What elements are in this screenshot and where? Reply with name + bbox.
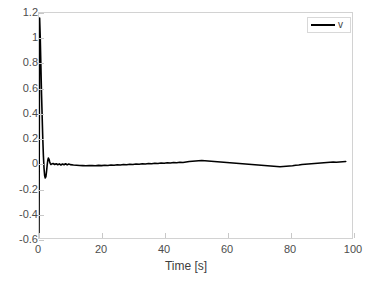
x-tick-mark: [228, 233, 229, 238]
y-tick-label: 0.8: [23, 56, 38, 68]
y-tick-label: 0.4: [23, 107, 38, 119]
x-tick-label: 20: [95, 243, 107, 255]
x-tick-label: 0: [35, 243, 41, 255]
legend-line-sample: [311, 24, 335, 26]
x-tick-mark: [102, 233, 103, 238]
x-axis-label: Time [s]: [0, 259, 372, 273]
y-tick-label: 1.2: [23, 6, 38, 18]
x-tick-mark: [354, 233, 355, 238]
y-tick-mark: [39, 190, 44, 191]
y-tick-mark: [39, 38, 44, 39]
y-tick-mark: [39, 139, 44, 140]
x-tick-mark: [39, 233, 40, 238]
y-tick-label: -0.4: [19, 208, 38, 220]
x-tick-label: 60: [221, 243, 233, 255]
y-tick-mark: [39, 215, 44, 216]
y-tick-label: -0.2: [19, 183, 38, 195]
x-tick-label: 100: [344, 243, 362, 255]
y-tick-label: 0.6: [23, 82, 38, 94]
y-tick-mark: [39, 89, 44, 90]
series-line-v: [39, 13, 352, 238]
x-tick-mark: [165, 233, 166, 238]
y-tick-mark: [39, 13, 44, 14]
plot-area: [38, 12, 353, 239]
y-tick-mark: [39, 240, 44, 241]
y-tick-mark: [39, 164, 44, 165]
x-tick-label: 40: [158, 243, 170, 255]
x-tick-mark: [291, 233, 292, 238]
legend-box: v: [307, 17, 351, 33]
figure-canvas: -0.6-0.4-0.200.20.40.60.811.2 0204060801…: [0, 0, 372, 283]
x-tick-label: 80: [284, 243, 296, 255]
legend-label-v: v: [338, 20, 343, 30]
y-tick-mark: [39, 114, 44, 115]
y-tick-mark: [39, 63, 44, 64]
y-tick-label: 0.2: [23, 132, 38, 144]
